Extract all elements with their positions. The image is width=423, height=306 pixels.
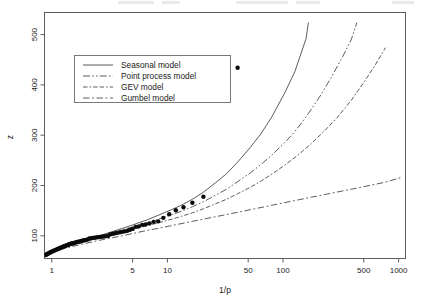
legend-label-gev-model: GEV model [121, 82, 164, 92]
x-tick-label-10: 10 [163, 266, 172, 275]
data-point [147, 221, 151, 225]
return-level-plot: 100 200 300 400 500 z 1 5 10 50 100 500 … [0, 0, 423, 306]
x-tick-label-500: 500 [357, 266, 371, 275]
data-point [235, 66, 239, 70]
y-axis-title: z [5, 135, 15, 139]
legend-label-seasonal-model: Seasonal model [121, 60, 181, 70]
data-point [181, 205, 185, 209]
data-point [144, 222, 148, 226]
scan-artifact-band [118, 1, 414, 4]
data-point [190, 201, 194, 205]
x-tick-label-5: 5 [130, 266, 135, 275]
plot-frame [45, 13, 406, 259]
y-axis-tick-labels: 100 200 300 400 500 [30, 27, 39, 242]
legend: Seasonal model Point process model GEV m… [75, 56, 231, 104]
curve-gumbel-model [47, 177, 402, 254]
x-axis-tick-labels: 1 5 10 50 100 500 1000 [50, 266, 408, 275]
y-tick-label-200: 200 [30, 178, 39, 192]
data-point [151, 220, 155, 224]
chart-figure: 100 200 300 400 500 z 1 5 10 50 100 500 … [0, 0, 423, 306]
data-point [201, 195, 205, 199]
x-axis-ticks [52, 259, 399, 263]
y-tick-label-100: 100 [30, 229, 39, 243]
x-tick-label-50: 50 [244, 266, 253, 275]
data-point [156, 219, 160, 223]
y-tick-label-300: 300 [30, 128, 39, 142]
data-point [161, 216, 165, 220]
y-axis-ticks [41, 35, 45, 236]
legend-label-point-process-model: Point process model [121, 71, 196, 81]
x-tick-label-100: 100 [276, 266, 290, 275]
y-tick-label-500: 500 [30, 27, 39, 41]
x-axis-title: 1/p [219, 285, 231, 295]
data-point [174, 208, 178, 212]
x-tick-label-1: 1 [50, 266, 55, 275]
x-tick-label-1000: 1000 [390, 266, 408, 275]
legend-label-gumbel-model: Gumbel model [121, 93, 175, 103]
y-tick-label-400: 400 [30, 78, 39, 92]
data-point [167, 212, 171, 216]
